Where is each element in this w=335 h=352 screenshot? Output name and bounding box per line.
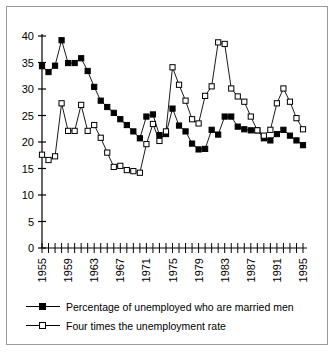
legend-sample-hollow-square-icon — [26, 320, 60, 332]
chart-legend: Percentage of unemployed who are married… — [26, 297, 316, 335]
legend-item-unemployment-rate: Four times the unemployment rate — [26, 316, 316, 335]
legend-sample-filled-square-icon — [26, 301, 60, 313]
legend-label: Percentage of unemployed who are married… — [66, 301, 294, 313]
legend-label: Four times the unemployment rate — [66, 320, 226, 332]
legend-item-married-men: Percentage of unemployed who are married… — [26, 297, 316, 316]
figure-border — [6, 6, 328, 345]
chart-figure: 0510152025303540 19551959196319671971197… — [0, 0, 335, 352]
